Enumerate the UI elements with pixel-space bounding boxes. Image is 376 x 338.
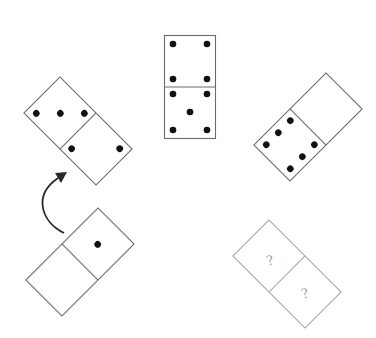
domino-bottom-right-unknown bbox=[233, 220, 341, 328]
domino-puzzle-diagram: ? ? bbox=[0, 0, 376, 338]
domino-bottom-left bbox=[26, 208, 134, 316]
curved-arrow-icon bbox=[43, 172, 67, 233]
domino-top bbox=[165, 36, 216, 139]
domino-right bbox=[254, 73, 362, 181]
domino-left bbox=[24, 77, 132, 185]
